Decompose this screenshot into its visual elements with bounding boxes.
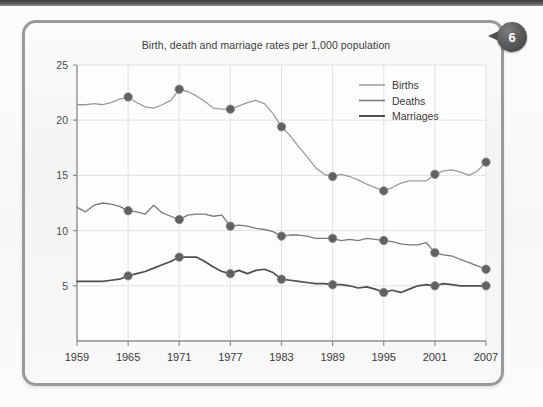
data-point-marker-births — [124, 93, 132, 101]
data-point-marker-deaths — [226, 222, 234, 230]
legend-label-births: Births — [392, 79, 419, 91]
y-axis-tick-label: 10 — [56, 225, 68, 237]
data-point-marker-marriages — [380, 288, 388, 296]
figure-number-label: 6 — [497, 22, 527, 52]
data-point-marker-deaths — [380, 236, 388, 244]
x-axis-tick-label: 1959 — [65, 351, 89, 363]
x-axis-tick-label: 1977 — [218, 351, 242, 363]
x-axis-tick-label: 1983 — [269, 351, 293, 363]
x-axis-tick-label: 1995 — [372, 351, 396, 363]
data-point-marker-births — [277, 123, 285, 131]
data-point-marker-deaths — [124, 207, 132, 215]
figure-number-badge: 6 — [497, 22, 527, 52]
data-point-marker-marriages — [431, 282, 439, 290]
y-axis-tick-label: 15 — [56, 169, 68, 181]
data-point-marker-births — [431, 170, 439, 178]
data-point-marker-deaths — [431, 248, 439, 256]
data-point-marker-deaths — [482, 265, 490, 273]
y-axis-tick-label: 5 — [62, 280, 68, 292]
x-axis-tick-label: 1989 — [320, 351, 344, 363]
data-point-marker-births — [226, 105, 234, 113]
data-point-marker-births — [175, 85, 183, 93]
page-root: 6 Birth, death and marriage rates per 1,… — [0, 0, 543, 407]
x-axis-tick-label: 2007 — [474, 351, 498, 363]
data-point-marker-deaths — [328, 234, 336, 242]
data-point-marker-deaths — [175, 215, 183, 223]
y-axis-tick-label: 25 — [56, 59, 68, 71]
x-axis-tick-label: 1965 — [116, 351, 140, 363]
top-decorative-bar — [0, 0, 543, 6]
data-point-marker-births — [380, 187, 388, 195]
data-point-marker-marriages — [277, 275, 285, 283]
legend-label-marriages: Marriages — [392, 110, 439, 122]
x-axis-tick-label: 1971 — [167, 351, 191, 363]
chart-card-inner: Birth, death and marriage rates per 1,00… — [25, 23, 501, 383]
chart-card: Birth, death and marriage rates per 1,00… — [22, 20, 504, 386]
data-point-marker-marriages — [328, 280, 336, 288]
data-point-marker-marriages — [482, 282, 490, 290]
data-point-marker-births — [328, 172, 336, 180]
data-point-marker-marriages — [175, 253, 183, 261]
legend-label-deaths: Deaths — [392, 95, 425, 107]
data-point-marker-births — [482, 158, 490, 166]
data-point-marker-marriages — [226, 269, 234, 277]
data-point-marker-marriages — [124, 272, 132, 280]
data-point-marker-deaths — [277, 232, 285, 240]
x-axis-tick-label: 2001 — [423, 351, 447, 363]
line-chart: 5101520251959196519711977198319891995200… — [25, 23, 501, 383]
y-axis-tick-label: 20 — [56, 114, 68, 126]
